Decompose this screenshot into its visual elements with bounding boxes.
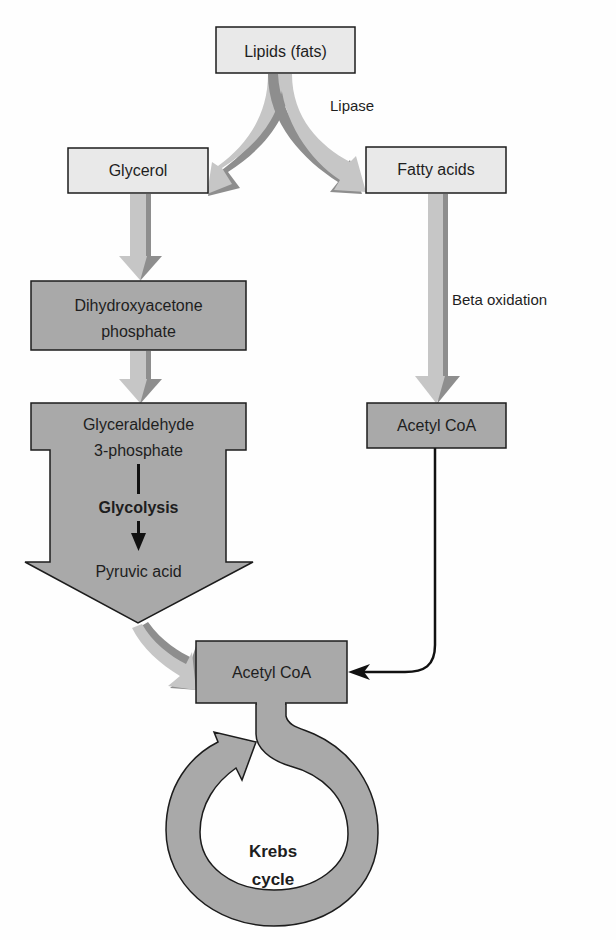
krebs-label-line1: Krebs <box>249 842 297 861</box>
node-glycolysis-arrow: Glyceraldehyde 3-phosphate Glycolysis Py… <box>25 403 253 623</box>
node-dhap-label-line1: Dihydroxyacetone <box>74 297 202 314</box>
node-acetyl-coa-bottom: Acetyl CoA <box>196 641 347 707</box>
pyruvate-to-acetylcoa-arrow <box>132 622 198 690</box>
krebs-label-line2: cycle <box>252 870 295 889</box>
node-fatty-acids: Fatty acids <box>366 147 506 193</box>
node-lipids-label: Lipids (fats) <box>244 43 327 60</box>
node-glycerol-label: Glycerol <box>109 162 168 179</box>
beta-oxidation-label: Beta oxidation <box>452 291 547 308</box>
node-glycerol: Glycerol <box>68 148 208 193</box>
node-acetyl-coa-right: Acetyl CoA <box>367 403 506 448</box>
acetylcoa-transfer-arrow <box>348 448 435 680</box>
node-pyruvic-label: Pyruvic acid <box>95 563 181 580</box>
node-acetyl-coa-right-label: Acetyl CoA <box>397 417 476 434</box>
lipase-arrow-right <box>268 74 366 194</box>
dhap-to-g3p-arrow <box>119 351 162 404</box>
node-g3p-label-line1: Glyceraldehyde <box>83 416 194 433</box>
node-lipids: Lipids (fats) <box>216 27 355 73</box>
glycerol-to-dhap-arrow <box>119 194 162 281</box>
node-fatty-acids-label: Fatty acids <box>397 161 474 178</box>
node-g3p-label-line2: 3-phosphate <box>94 442 183 459</box>
node-acetyl-coa-bottom-label: Acetyl CoA <box>232 664 311 681</box>
lipase-label: Lipase <box>330 97 374 114</box>
krebs-cycle-ring: Krebs cycle <box>166 704 378 926</box>
node-dhap-label-line2: phosphate <box>101 323 176 340</box>
glycolysis-line <box>137 464 140 494</box>
glycolysis-label: Glycolysis <box>98 499 178 516</box>
lipid-catabolism-diagram: Lipids (fats) Lipase Glycerol Fatty acid… <box>0 0 616 940</box>
node-dhap: Dihydroxyacetone phosphate <box>31 281 246 350</box>
